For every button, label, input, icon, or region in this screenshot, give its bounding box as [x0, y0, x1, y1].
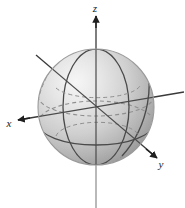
z-axis-label: z [92, 2, 98, 14]
x-axis-arrowhead [18, 118, 30, 120]
figure-canvas: x y z [0, 0, 185, 208]
y-axis-arrowhead [146, 149, 157, 158]
x-axis-label: x [6, 117, 12, 129]
y-axis-label: y [158, 158, 164, 170]
sphere-coordinate-figure: x y z [0, 0, 185, 208]
